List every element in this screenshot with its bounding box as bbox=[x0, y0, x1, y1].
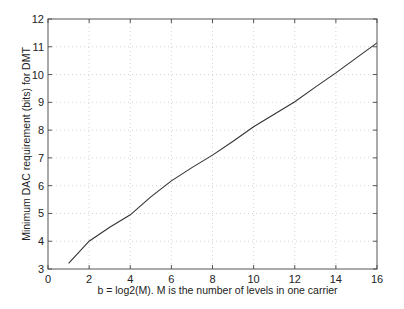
y-tick-label: 10 bbox=[32, 69, 44, 81]
y-tick-label: 8 bbox=[38, 124, 44, 136]
y-tick-label: 7 bbox=[38, 152, 44, 164]
y-tick-label: 4 bbox=[38, 235, 44, 247]
series-line bbox=[69, 43, 377, 264]
x-tick-label: 2 bbox=[86, 273, 92, 285]
y-tick-label: 5 bbox=[38, 207, 44, 219]
x-tick-label: 0 bbox=[45, 273, 51, 285]
y-tick-labels: 3456789101112 bbox=[32, 13, 44, 275]
y-tick-label: 9 bbox=[38, 96, 44, 108]
y-tick-label: 11 bbox=[33, 41, 44, 53]
grid-lines bbox=[48, 19, 377, 269]
x-tick-label: 16 bbox=[371, 273, 383, 285]
y-tick-label: 6 bbox=[38, 180, 44, 192]
y-axis-label: Minimum DAC requirement (bits) for DMT bbox=[20, 47, 32, 241]
y-tick-label: 3 bbox=[38, 263, 44, 275]
x-axis-label: b = log2(M). M is the number of levels i… bbox=[97, 284, 338, 296]
line-chart: 0246810121416 3456789101112 b = log2(M).… bbox=[0, 0, 404, 309]
y-tick-label: 12 bbox=[32, 13, 44, 25]
data-series bbox=[69, 43, 377, 264]
